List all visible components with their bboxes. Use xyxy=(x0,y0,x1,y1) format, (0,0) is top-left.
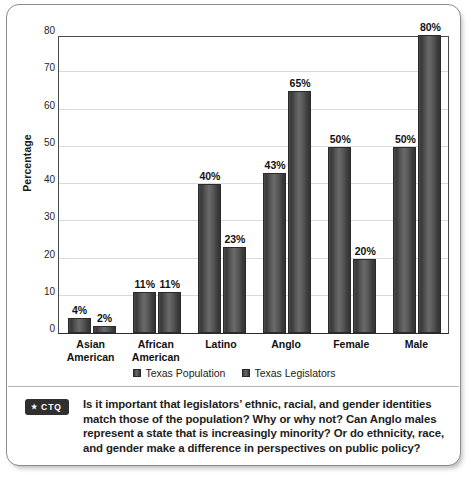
y-tick-label: 60 xyxy=(29,101,55,111)
bar-value-label: 20% xyxy=(342,246,388,257)
legend-swatch-icon xyxy=(133,369,141,377)
bar[interactable] xyxy=(158,292,181,333)
bar-group: 50%20% xyxy=(328,37,376,333)
caption-text: Is it important that legislators’ ethnic… xyxy=(83,397,445,455)
bar-group: 50%80% xyxy=(393,37,441,333)
bar-value-label: 40% xyxy=(187,171,233,182)
x-category-line: American xyxy=(108,351,204,364)
y-tick-label: 40 xyxy=(29,175,55,185)
bar-group: 11%11% xyxy=(133,37,181,333)
bar-value-label: 80% xyxy=(407,22,453,33)
bar[interactable] xyxy=(353,259,376,334)
legend-label: Texas Legislators xyxy=(254,367,335,379)
bar-value-label: 2% xyxy=(82,313,128,324)
bar[interactable] xyxy=(328,147,351,333)
legend-label: Texas Population xyxy=(145,367,225,379)
y-tick-label: 0 xyxy=(29,324,55,334)
y-tick-label: 30 xyxy=(29,212,55,222)
caption-divider xyxy=(8,386,459,387)
y-tick-label: 10 xyxy=(29,287,55,297)
gridline xyxy=(59,146,448,147)
bar[interactable] xyxy=(288,91,311,333)
bar[interactable] xyxy=(133,292,156,333)
y-tick-label: 50 xyxy=(29,138,55,148)
legend-swatch-icon xyxy=(242,369,250,377)
gridline xyxy=(59,220,448,221)
bar-group: 40%23% xyxy=(198,37,246,333)
chart-legend: Texas PopulationTexas Legislators xyxy=(7,367,462,379)
gridline xyxy=(59,109,448,110)
bar[interactable] xyxy=(418,35,441,333)
x-category-label: Male xyxy=(368,338,464,351)
bar-group: 4%2% xyxy=(68,37,116,333)
x-axis-labels: AsianAmericanAfricanAmericanLatinoAngloF… xyxy=(58,338,449,368)
bar[interactable] xyxy=(393,147,416,333)
legend-entry[interactable]: Texas Population xyxy=(133,367,225,379)
ctq-badge-label: CTQ xyxy=(41,402,62,412)
bar-value-label: 50% xyxy=(317,134,363,145)
bar[interactable] xyxy=(223,247,246,333)
ctq-badge: ★ CTQ xyxy=(25,399,69,415)
y-tick-label: 20 xyxy=(29,250,55,260)
gridline xyxy=(59,71,448,72)
bar[interactable] xyxy=(93,326,116,333)
bar-value-label: 65% xyxy=(277,78,323,89)
gridline xyxy=(59,183,448,184)
bar-value-label: 23% xyxy=(212,234,258,245)
y-axis-ticks: 01020304050607080 xyxy=(25,36,55,334)
legend-entry[interactable]: Texas Legislators xyxy=(242,367,335,379)
bar[interactable] xyxy=(263,173,286,333)
gridline xyxy=(59,258,448,259)
star-icon: ★ xyxy=(31,403,38,410)
y-tick-label: 80 xyxy=(29,26,55,36)
plot-area: 4%2%11%11%40%23%43%65%50%20%50%80% xyxy=(58,36,449,334)
bar-chart: Percentage 01020304050607080 4%2%11%11%4… xyxy=(7,5,462,383)
figure-frame: Percentage 01020304050607080 4%2%11%11%4… xyxy=(6,4,461,466)
x-category-line: Male xyxy=(368,338,464,351)
gridline xyxy=(59,295,448,296)
bar-value-label: 11% xyxy=(147,279,193,290)
bar[interactable] xyxy=(198,184,221,333)
caption-block: ★ CTQ Is it important that legislators’ … xyxy=(25,397,445,455)
bar-group: 43%65% xyxy=(263,37,311,333)
y-tick-label: 70 xyxy=(29,63,55,73)
